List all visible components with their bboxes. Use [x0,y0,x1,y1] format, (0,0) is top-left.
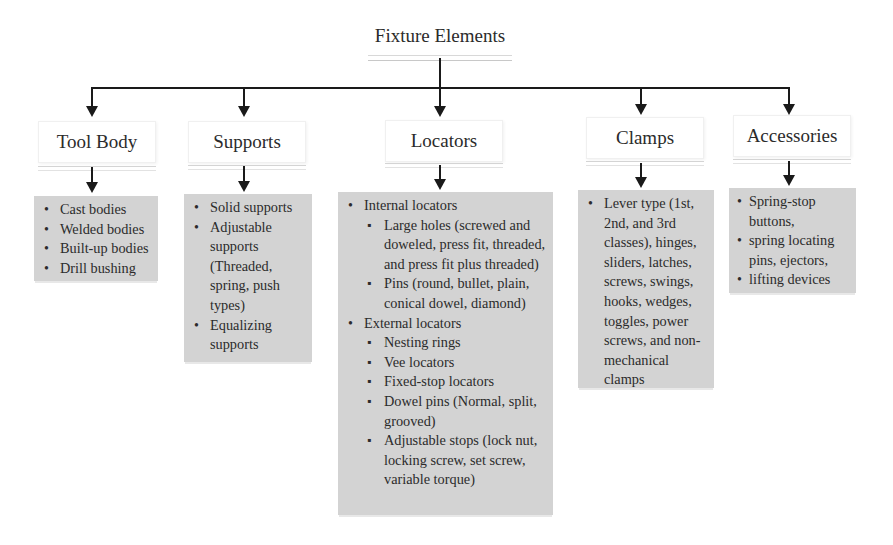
content-box-locators: Internal locators Large holes (screwed a… [338,192,553,515]
drop-connector-accessories-content [788,161,790,176]
header-underline [733,159,851,164]
list-subitem: Pins (round, bullet, plain, conical dowe… [346,274,549,313]
list-item: Solid supports [192,198,308,218]
list-subitem: Large holes (screwed and doweled, press … [346,216,549,275]
drop-connector-locators-content [439,165,441,180]
list-item: Lever type (1st, 2nd, and 3rd classes), … [586,194,710,390]
arrow-down-icon [86,182,98,193]
category-label: Locators [411,130,477,152]
arrow-down-icon [434,179,446,190]
category-label: Tool Body [57,131,137,153]
drop-connector-tool-body [91,87,93,107]
item-list: Spring-stop buttons, spring locating pin… [737,192,852,290]
list-item: Drill bushing [42,259,154,279]
arrow-down-icon [783,175,795,186]
category-label: Supports [213,131,281,153]
item-list: Solid supports Adjustable supports (Thre… [192,198,308,355]
drop-connector-tool-body-content [91,167,93,183]
drop-connector-supports [243,87,245,107]
drop-connector-clamps [640,87,642,105]
category-header-supports: Supports [188,121,306,163]
category-header-accessories: Accessories [733,115,851,157]
header-underline [188,165,306,170]
arrow-down-icon [238,181,250,192]
list-subitem: Dowel pins (Normal, split, grooved) [346,392,549,431]
arrow-down-icon [86,106,98,117]
arrow-down-icon [238,106,250,117]
list-item: Adjustable supports (Threaded, spring, p… [192,218,308,316]
list-subitem: Nesting rings [346,333,549,353]
list-subitem: Adjustable stops (lock nut, locking scre… [346,431,549,490]
arrow-down-icon [635,104,647,115]
list-item: Cast bodies [42,200,154,220]
drop-connector-clamps-content [640,163,642,178]
list-item: Spring-stop buttons, [737,192,852,231]
arrow-down-icon [434,106,446,117]
list-group-heading: Internal locators [346,196,549,216]
list-item: spring locating pins, ejectors, [737,231,852,270]
arrow-down-icon [783,104,795,115]
drop-connector-accessories [788,87,790,105]
drop-connector-locators [439,87,441,107]
list-item: Built-up bodies [42,239,154,259]
list-group-heading: External locators [346,314,549,334]
item-list: Lever type (1st, 2nd, and 3rd classes), … [586,194,710,390]
category-label: Clamps [616,127,674,149]
header-underline [385,163,503,168]
header-underline [38,166,156,171]
list-item: Equalizing supports [192,316,308,355]
root-vertical-connector [439,58,441,89]
root-node-title: Fixture Elements [360,24,520,48]
content-box-tool-body: Cast bodies Welded bodies Built-up bodie… [34,196,158,281]
list-item: Welded bodies [42,220,154,240]
arrow-down-icon [635,177,647,188]
item-list: Internal locators Large holes (screwed a… [346,196,549,490]
content-box-clamps: Lever type (1st, 2nd, and 3rd classes), … [578,190,714,388]
list-subitem: Fixed-stop locators [346,372,549,392]
category-header-tool-body: Tool Body [38,121,156,163]
header-underline [586,161,704,166]
content-box-accessories: Spring-stop buttons, spring locating pin… [729,188,856,293]
content-box-supports: Solid supports Adjustable supports (Thre… [184,194,312,362]
list-subitem: Vee locators [346,353,549,373]
drop-connector-supports-content [243,166,245,182]
category-label: Accessories [747,125,838,147]
list-item: lifting devices [737,270,852,290]
category-header-locators: Locators [385,120,503,162]
item-list: Cast bodies Welded bodies Built-up bodie… [42,200,154,278]
category-header-clamps: Clamps [586,117,704,159]
